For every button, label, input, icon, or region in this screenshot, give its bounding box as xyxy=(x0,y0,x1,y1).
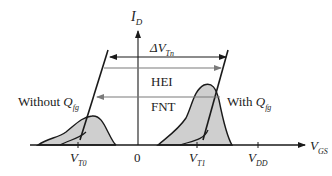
vt1-label: VT1 xyxy=(189,150,205,168)
delta-vtn-label: ΔVTn xyxy=(149,40,174,58)
with-qfg-label: With Qfg xyxy=(227,94,271,112)
without-qfg-label: Without Qfg xyxy=(18,94,79,112)
fnt-label: FNT xyxy=(151,99,176,114)
vdd-label: VDD xyxy=(248,150,268,168)
y-axis-label: ID xyxy=(130,9,143,27)
x-axis-label: VGS xyxy=(310,138,328,156)
threshold-voltage-diagram: ID ΔVTn HEI FNT Without Qfg With Qfg VT0… xyxy=(0,0,332,176)
vt0-label: VT0 xyxy=(70,150,86,168)
distribution-without-qfg xyxy=(38,116,116,145)
hei-label: HEI xyxy=(151,74,173,89)
distribution-with-qfg xyxy=(158,84,232,145)
zero-label: 0 xyxy=(134,150,141,165)
